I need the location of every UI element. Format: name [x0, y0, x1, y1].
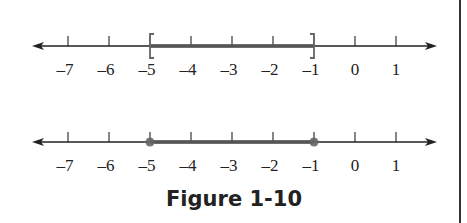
tick-label: –4	[179, 60, 198, 79]
tick-label: –3	[220, 156, 238, 175]
tick-label: –4	[179, 156, 198, 175]
tick-label: 1	[392, 60, 401, 79]
tick-label: –5	[138, 60, 156, 79]
tick-label: –1	[302, 60, 320, 79]
tick-label: –1	[302, 156, 320, 175]
tick-label: 1	[392, 156, 401, 175]
tick-label: –7	[56, 60, 75, 79]
tick-label: –2	[261, 60, 279, 79]
tick-label: 0	[351, 156, 360, 175]
filled-dot-icon	[310, 138, 319, 147]
tick-label: –6	[97, 60, 115, 79]
page-border-divider	[459, 0, 461, 223]
tick-label: –2	[261, 156, 279, 175]
figure-canvas: –7–6–5–4–3–2–101 –7–6–5–4–3–2–101 Figure…	[0, 0, 467, 223]
tick-label: –7	[56, 156, 75, 175]
number-line-brackets: –7–6–5–4–3–2–101	[32, 34, 437, 79]
tick-label: 0	[351, 60, 360, 79]
tick-label: –5	[138, 156, 156, 175]
filled-dot-icon	[146, 138, 155, 147]
tick-label: –3	[220, 60, 238, 79]
tick-label: –6	[97, 156, 115, 175]
figure-caption: Figure 1-10	[166, 187, 302, 211]
number-line-dots: –7–6–5–4–3–2–101	[32, 132, 437, 175]
